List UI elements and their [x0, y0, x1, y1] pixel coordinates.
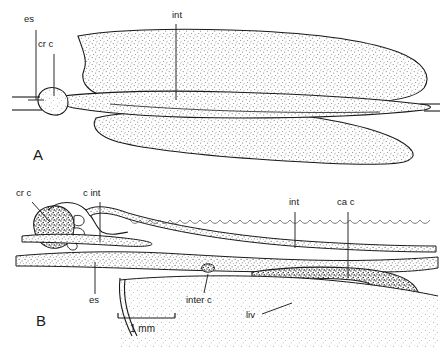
label-es-a: es: [24, 13, 34, 24]
panel-b-intestine-villi: [130, 220, 430, 224]
label-int-b: int: [289, 196, 299, 207]
panel-b-intercalary-caecum: [202, 264, 215, 272]
panel-letter-a: A: [33, 146, 43, 163]
label-ca-c-b: ca c: [337, 196, 355, 207]
panel-b-crop-lower-tongue: [22, 234, 152, 246]
label-cr-c-b: cr c: [16, 187, 32, 198]
label-c-int-b: c int: [83, 187, 101, 198]
panel-a: es cr c int A: [12, 9, 440, 164]
label-inter-c-b: inter c: [186, 294, 212, 305]
panel-b: cr c c int int ca c es inter c liv B 1 m…: [16, 187, 438, 348]
label-cr-c-a: cr c: [38, 38, 54, 49]
anatomical-figure: es cr c int A: [0, 0, 443, 348]
label-liv-b: liv: [246, 309, 255, 320]
panel-b-crop-projection-1: [74, 215, 84, 225]
panel-a-crop-bulge: [38, 87, 68, 115]
panel-letter-b: B: [36, 312, 46, 329]
label-int-a: int: [172, 9, 182, 20]
panel-b-esophagus-band: [16, 252, 438, 273]
label-es-b: es: [89, 294, 99, 305]
scale-bar-label: 1 mm: [130, 323, 155, 334]
figure-canvas: es cr c int A: [0, 0, 443, 348]
